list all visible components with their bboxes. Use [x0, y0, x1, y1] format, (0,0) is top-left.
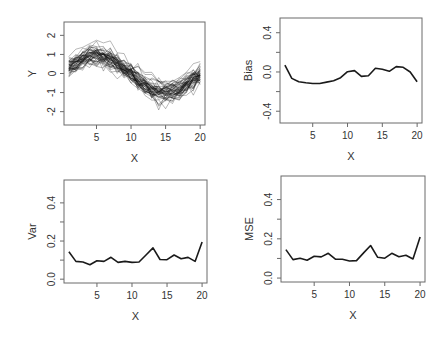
- x-tick-label: 10: [342, 130, 354, 141]
- series-line: [286, 237, 420, 261]
- y-tick-label: 0.0: [263, 65, 274, 79]
- series-line: [69, 242, 202, 265]
- y-axis-label: Y: [26, 69, 38, 77]
- x-tick-label: 10: [125, 132, 137, 143]
- panel-bias: 5101520-0.40.00.4XBias: [242, 18, 423, 162]
- y-axis-label: MSE: [243, 217, 255, 241]
- y-tick-label: -0.4: [263, 102, 274, 120]
- x-tick-label: 5: [311, 289, 317, 300]
- x-tick-label: 15: [379, 289, 391, 300]
- panel-mse: 51015200.00.20.4XMSE: [243, 176, 426, 321]
- y-axis-label: Bias: [242, 59, 254, 81]
- y-tick-label: 0.4: [47, 196, 58, 210]
- y-tick-label: 1: [47, 51, 58, 57]
- y-tick-label: 2: [47, 32, 58, 38]
- y-tick-label: 0.2: [47, 234, 58, 248]
- x-axis-label: X: [131, 152, 139, 164]
- x-tick-label: 15: [161, 290, 173, 301]
- y-tick-label: 0.0: [47, 272, 58, 286]
- x-tick-label: 10: [126, 290, 138, 301]
- panel-variance: 51015200.00.20.4XVar: [26, 180, 208, 322]
- x-tick-label: 20: [412, 130, 424, 141]
- y-tick-label: -1: [47, 88, 58, 97]
- y-tick-label: -2: [47, 107, 58, 116]
- y-axis-label: Var: [26, 223, 38, 240]
- x-tick-label: 10: [344, 289, 356, 300]
- panel-y-simulated-curves: 5101520-2-1012XY: [26, 22, 206, 164]
- x-tick-label: 15: [160, 132, 172, 143]
- plot-frame: [281, 176, 425, 282]
- y-tick-label: 0.2: [264, 231, 275, 245]
- y-tick-label: 0: [47, 70, 58, 76]
- figure: 5101520-2-1012XY 5101520-0.40.00.4XBias …: [0, 0, 446, 347]
- y-tick-label: 0.4: [263, 25, 274, 39]
- x-axis-label: X: [132, 310, 140, 322]
- x-tick-label: 20: [414, 289, 426, 300]
- x-axis-label: X: [349, 309, 357, 321]
- y-tick-label: 0.4: [264, 192, 275, 206]
- x-axis-label: X: [347, 150, 355, 162]
- y-tick-label: 0.0: [264, 271, 275, 285]
- plot-frame: [64, 180, 207, 283]
- series-line: [285, 65, 417, 83]
- x-tick-label: 5: [94, 290, 100, 301]
- x-tick-label: 5: [94, 132, 100, 143]
- x-tick-label: 20: [195, 132, 207, 143]
- x-tick-label: 15: [377, 130, 389, 141]
- x-tick-label: 5: [310, 130, 316, 141]
- x-tick-label: 20: [197, 290, 209, 301]
